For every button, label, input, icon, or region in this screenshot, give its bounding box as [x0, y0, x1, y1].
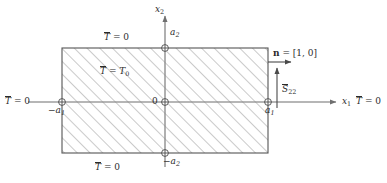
stress-label-s22: S22 [282, 84, 296, 94]
tick-label-minus-a1: −a1 [48, 106, 65, 115]
node-origin [162, 99, 169, 106]
tick-label-a2: a2 [170, 28, 179, 37]
x2-axis-label: x2 [155, 5, 164, 14]
figure-graphics [0, 0, 387, 183]
bc-top-label: T = 0 [104, 32, 129, 42]
bc-bottom-label: T = 0 [95, 162, 120, 172]
normal-vector-label: n = [1, 0] [273, 49, 317, 58]
node-top-a2 [162, 45, 169, 52]
bc-right-label: T = 0 [356, 96, 381, 106]
interior-condition-label: T = T0 [100, 66, 129, 76]
bc-left-label: T = 0 [5, 96, 30, 106]
tick-label-minus-a2: −a2 [163, 157, 180, 166]
tick-label-a1: a1 [265, 106, 274, 115]
x1-axis-label: x1 [342, 97, 351, 106]
boundary-value-problem-figure: x1 x2 0 −a1 a1 a2 −a2 T = 0 T = 0 T = 0 … [0, 0, 387, 183]
origin-label: 0 [152, 97, 158, 106]
